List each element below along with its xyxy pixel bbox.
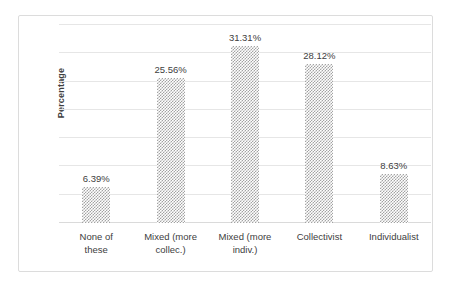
- bar-group: 31.31%: [213, 25, 277, 223]
- bar-value-label: 31.31%: [229, 32, 261, 43]
- bar-group: 28.12%: [287, 25, 351, 223]
- x-axis-label-line: Mixed (more: [213, 230, 277, 243]
- x-axis-label-line: None of: [64, 230, 128, 243]
- x-axis-category-labels: None oftheseMixed (morecollec.)Mixed (mo…: [59, 226, 431, 268]
- x-axis-label-line: these: [64, 243, 128, 256]
- bar[interactable]: [157, 78, 185, 223]
- x-axis-label-line: Mixed (more: [139, 230, 203, 243]
- bar-group: 25.56%: [139, 25, 203, 223]
- x-axis-label-line: Collectivist: [287, 230, 351, 243]
- bar[interactable]: [82, 187, 110, 223]
- x-axis-label: Mixed (moreindiv.): [213, 230, 277, 256]
- bars-layer: 6.39%25.56%31.31%28.12%8.63%: [59, 25, 431, 223]
- x-axis-label-line: Individualist: [362, 230, 426, 243]
- bar-value-label: 28.12%: [303, 50, 335, 61]
- x-axis-label-line: indiv.): [213, 243, 277, 256]
- bar[interactable]: [380, 174, 408, 223]
- bar-value-label: 25.56%: [154, 64, 186, 75]
- x-axis-label: Individualist: [362, 230, 426, 243]
- bar[interactable]: [305, 64, 333, 223]
- x-axis-label: Collectivist: [287, 230, 351, 243]
- bar-value-label: 8.63%: [380, 160, 407, 171]
- bar-group: 6.39%: [64, 25, 128, 223]
- x-axis-label-line: collec.): [139, 243, 203, 256]
- bar-chart-figure: Percentage 6.39%25.56%31.31%28.12%8.63% …: [0, 0, 449, 287]
- plot-area: 6.39%25.56%31.31%28.12%8.63%: [59, 25, 431, 223]
- x-axis-label: Mixed (morecollec.): [139, 230, 203, 256]
- x-axis-label: None ofthese: [64, 230, 128, 256]
- bar-group: 8.63%: [362, 25, 426, 223]
- chart-frame: Percentage 6.39%25.56%31.31%28.12%8.63% …: [18, 15, 433, 272]
- bar[interactable]: [231, 46, 259, 223]
- bar-value-label: 6.39%: [83, 173, 110, 184]
